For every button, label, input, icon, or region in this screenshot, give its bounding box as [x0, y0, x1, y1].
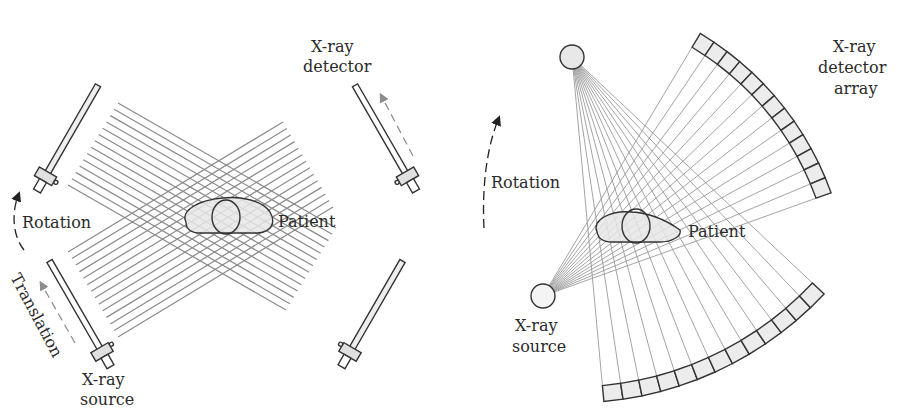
patient-cross-section-left	[185, 198, 273, 234]
detector-cell	[602, 383, 623, 401]
x-ray-beam	[72, 129, 287, 259]
rotation-label-left: Rotation	[22, 213, 91, 232]
detector-array-label-1: X-ray	[833, 37, 875, 56]
x-ray-beam	[572, 57, 709, 357]
ct-scanner-diagram: Patient R	[0, 0, 899, 418]
x-ray-beam	[572, 57, 812, 283]
x-ray-beam	[572, 57, 772, 320]
x-ray-beam	[543, 106, 762, 296]
translation-label: Translation	[6, 270, 66, 361]
fan-beams-bottom-source	[543, 47, 816, 296]
x-ray-beam	[72, 179, 290, 304]
right-panel: Patient Rotation X-ray detector array X-…	[484, 34, 887, 402]
source-label-left-2: source	[80, 390, 134, 409]
x-ray-source-top	[560, 45, 584, 69]
x-ray-beam	[543, 130, 781, 296]
x-ray-beam	[543, 55, 705, 296]
rod-bottom-right	[329, 254, 411, 372]
x-ray-beam	[543, 84, 741, 296]
source-label-right-1: X-ray	[515, 316, 557, 335]
source-label-right-2: source	[512, 337, 566, 356]
patient-label-left: Patient	[278, 212, 336, 231]
x-ray-beam	[103, 128, 321, 253]
source-label-left-1: X-ray	[82, 370, 124, 389]
patient-label-right: Patient	[688, 222, 746, 241]
left-panel: Patient R	[6, 37, 424, 409]
detector-array-top	[692, 34, 831, 199]
x-ray-beam	[572, 57, 741, 340]
x-ray-source-bottom	[531, 284, 555, 308]
patient-cross-section-right	[596, 209, 680, 243]
x-ray-beam	[543, 184, 810, 296]
detector-label-left-2: detector	[303, 57, 372, 76]
detector-array-bottom	[602, 283, 824, 402]
x-ray-detector-left	[343, 80, 425, 198]
rod-top-left	[28, 80, 110, 198]
detector-array-label-3: array	[834, 79, 877, 98]
x-ray-beam	[543, 95, 752, 296]
detector-label-left-1: X-ray	[311, 37, 353, 56]
rotation-label-right: Rotation	[491, 173, 560, 192]
x-ray-beam	[543, 143, 789, 296]
detector-array-label-2: detector	[818, 58, 887, 77]
